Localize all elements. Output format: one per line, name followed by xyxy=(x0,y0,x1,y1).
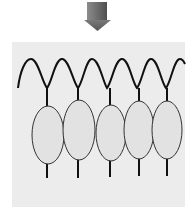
ellipse-5 xyxy=(152,101,182,159)
down-arrow-icon xyxy=(84,2,111,31)
diagram-canvas xyxy=(0,0,194,217)
arrow-head xyxy=(84,20,111,31)
ellipse-3 xyxy=(96,105,126,161)
arrow-shaft xyxy=(87,2,107,22)
ellipse-1 xyxy=(32,106,64,164)
ellipses xyxy=(32,100,182,164)
ellipse-2 xyxy=(63,100,95,160)
ellipse-4 xyxy=(124,101,154,159)
